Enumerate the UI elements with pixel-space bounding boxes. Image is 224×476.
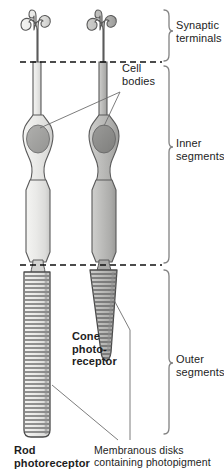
membranous-disks-label: Membranous disks containing photopigment (94, 444, 211, 468)
bracket-label-inner-segments: Inner segments (176, 137, 224, 162)
inner-segments-bracket (164, 66, 173, 263)
photoreceptor-illustration (0, 0, 224, 476)
rod-nucleus (27, 125, 50, 153)
cone-inner-segment (92, 180, 116, 262)
synaptic-terminals-bracket (164, 10, 173, 61)
outer-segments-bracket (164, 270, 173, 434)
bracket-label-synaptic-terminals: Synaptic terminals (176, 19, 222, 44)
disks-leader-cone (114, 300, 130, 440)
rod-photoreceptor-label: Rod photoreceptor (14, 444, 90, 469)
figure-canvas: Synaptic terminals Cell bodies Inner seg… (0, 0, 224, 476)
rod-connecting-cilium (31, 260, 45, 273)
rod-inner-segment (26, 180, 50, 262)
cone-photoreceptor-label: Cone photo- receptor (72, 330, 117, 368)
callout-label-cell-bodies: Cell bodies (122, 62, 155, 87)
bracket-label-outer-segments: Outer segments (176, 353, 224, 378)
cone-nucleus (93, 125, 116, 153)
rod-photoreceptor-cell (21, 10, 53, 437)
cone-axon (99, 62, 107, 118)
cone-synaptic-terminal (87, 10, 116, 70)
rod-axon (33, 62, 41, 118)
disks-leader-rod (52, 385, 118, 440)
rod-synaptic-terminal (21, 10, 50, 70)
